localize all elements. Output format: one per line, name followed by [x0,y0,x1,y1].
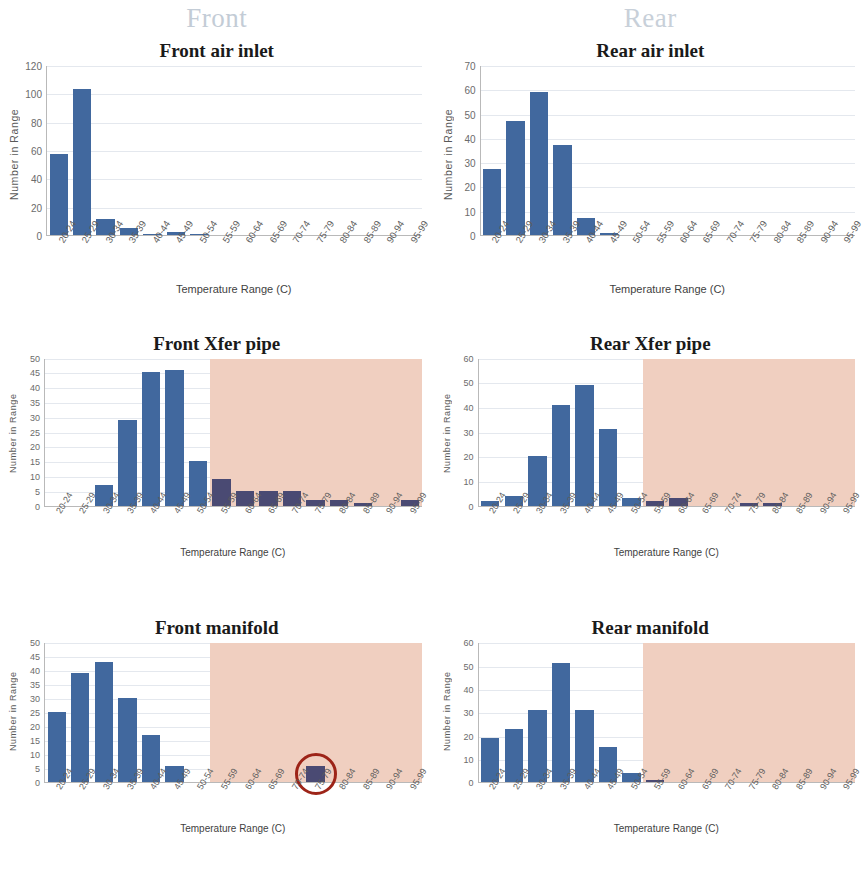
plot-area-wrap: 020406080100120 [20,66,422,236]
bar-slot [258,66,281,235]
x-slot: 30-34 [525,783,549,823]
bar-slot [691,66,714,235]
x-slot: 50-54 [186,783,210,823]
x-slot: 25-29 [68,783,92,823]
x-slot: 65-69 [690,783,714,823]
x-slot: 70-74 [280,783,304,823]
bar-slot [351,643,375,782]
y-axis-ticks: 020406080100120 [20,66,46,236]
bar-series [479,643,856,782]
x-slot: 75-79 [737,783,761,823]
x-slot: 90-94 [374,507,398,547]
bar-slot [47,66,70,235]
bar-slot [574,66,597,235]
bar-slot [186,359,210,506]
x-slot: 85-89 [784,507,808,547]
plot-area [478,359,856,507]
chart-title: Rear manifold [434,607,867,643]
bar-slot [139,359,163,506]
bar-slot [116,643,140,782]
x-slot: 40-44 [138,507,162,547]
bar-slot [69,359,93,506]
x-slot: 90-94 [808,236,831,280]
x-slot: 35-39 [548,783,572,823]
x-slot: 20-24 [46,236,69,280]
bar-slot [164,66,187,235]
y-tick-label: 50 [464,109,475,120]
plot-area-wrap: 05101520253035404550 [18,359,422,507]
y-tick-label: 10 [30,472,40,482]
x-slot: 50-54 [619,507,643,547]
y-tick-label: 30 [464,158,475,169]
bar-slot [479,643,503,782]
plot-area-wrap: 0102030405060 [452,643,856,783]
y-tick-label: 20 [464,182,475,193]
plot-area-wrap: 0102030405060 [452,359,856,507]
x-slot: 50-54 [187,236,210,280]
bar-slot [187,66,210,235]
bar-slot [714,643,738,782]
column-header-front: Front [0,0,434,38]
y-tick-label: 20 [31,202,42,213]
y-tick-label: 60 [463,638,473,648]
chart-row-2: Front Xfer pipeNumber in Range0510152025… [0,323,867,608]
y-tick-label: 20 [463,452,473,462]
bar-slot [45,643,69,782]
bar-slot [94,66,117,235]
x-slot: 80-84 [327,507,351,547]
x-slot: 30-34 [91,507,115,547]
x-axis-title: Temperature Range (C) [44,547,422,558]
x-slot: 80-84 [761,783,785,823]
bar [142,372,160,505]
bar-slot [481,66,504,235]
x-axis-title: Temperature Range (C) [478,547,856,558]
y-tick-label: 10 [463,755,473,765]
x-slot: 35-39 [550,236,573,280]
bar-slot [280,643,304,782]
bar-slot [831,359,855,506]
y-tick-label: 45 [30,652,40,662]
x-slot: 80-84 [761,507,785,547]
chart-body: Number in Range01020304050607020-2425-29… [434,66,867,323]
plot-column: 02040608010012020-2425-2930-3435-3940-44… [20,66,422,323]
bar-slot [304,66,327,235]
x-slot: 55-59 [643,783,667,823]
chart-cell-rear-manifold: Rear manifoldNumber in Range010203040506… [434,607,867,892]
y-tick-label: 30 [463,428,473,438]
bar-slot [620,359,644,506]
y-axis-title: Number in Range [440,72,454,237]
y-tick-label: 45 [30,368,40,378]
chart-cell-front-air-inlet: Front air inletNumber in Range0204060801… [0,38,434,323]
y-tick-label: 0 [35,778,40,788]
bar-slot [715,66,738,235]
x-slot: 65-69 [257,236,280,280]
bar-slot [502,359,526,506]
x-slot: 40-44 [138,783,162,823]
column-headers: Front Rear [0,0,867,38]
y-tick-label: 50 [463,662,473,672]
x-slot: 85-89 [784,783,808,823]
x-slot: 55-59 [210,236,233,280]
x-slot: 30-34 [93,236,116,280]
y-tick-label: 30 [30,413,40,423]
bar-slot [92,359,116,506]
x-axis-ticks: 20-2425-2930-3435-3940-4445-4950-5455-59… [44,783,422,823]
x-axis-ticks: 20-2425-2930-3435-3940-4445-4950-5455-59… [478,507,856,547]
y-tick-label: 15 [30,457,40,467]
bar-slot [714,359,738,506]
x-slot: 85-89 [351,507,375,547]
figure-page: Front Rear Front air inletNumber in Rang… [0,0,867,892]
y-axis-ticks: 05101520253035404550 [18,359,44,507]
x-slot: 45-49 [595,783,619,823]
bar-slot [527,66,550,235]
y-axis-title: Number in Range [440,647,452,775]
chart-cell-rear-air-inlet: Rear air inletNumber in Range01020304050… [434,38,867,323]
bar-slot [304,359,328,506]
y-tick-label: 70 [464,61,475,72]
y-tick-label: 20 [463,732,473,742]
bar-slot [737,359,761,506]
x-slot: 60-64 [666,783,690,823]
chart-body: Number in Range0510152025303540455020-24… [0,643,434,892]
x-slot: 30-34 [91,783,115,823]
y-axis-ticks: 010203040506070 [454,66,480,236]
